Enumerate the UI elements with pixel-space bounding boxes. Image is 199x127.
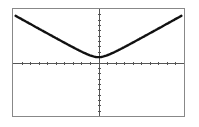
graph-screen: [0, 0, 199, 127]
